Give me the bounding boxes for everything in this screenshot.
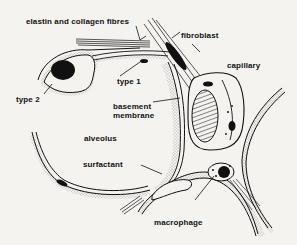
capillary: [188, 73, 244, 150]
label-type2: type 2: [16, 96, 40, 104]
label-macrophage: macrophage: [154, 219, 203, 227]
label-capillary: capillary: [227, 62, 260, 70]
label-surfactant: surfactant: [83, 161, 123, 169]
septal-wall: [156, 62, 185, 192]
elastin-collagen-fibres: [76, 39, 150, 47]
label-alveolus: alveolus: [84, 135, 117, 143]
label-fibroblast: fibroblast: [181, 32, 218, 40]
label-membrane: membrane: [113, 112, 154, 120]
type2-cell-wall: [38, 48, 170, 96]
label-type1: type 1: [117, 78, 141, 86]
label-basement: basement: [113, 103, 151, 111]
diagram-drawing: [0, 0, 297, 245]
label-elastin-collagen-fibres: elastin and collagen fibres: [26, 18, 129, 26]
